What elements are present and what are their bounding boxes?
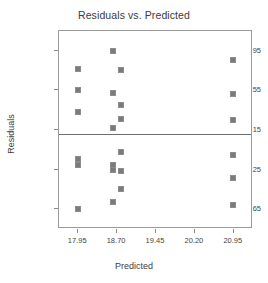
data-point [110,48,116,54]
chart-title: Residuals vs. Predicted [0,9,268,21]
x-tick-mark [233,229,234,233]
data-point [230,91,236,97]
data-point [230,117,236,123]
data-point [230,57,236,63]
data-point [75,162,81,168]
data-point [118,102,124,108]
data-point [118,186,124,192]
data-point [118,67,124,73]
y-axis-title: Residuals [6,94,16,174]
x-tick-mark [155,229,156,233]
data-point [230,152,236,158]
x-tick-mark [194,229,195,233]
x-axis-title: Predicted [0,261,268,271]
residuals-scatter-chart: Residuals vs. Predicted Residuals Predic… [0,0,268,283]
x-tick-mark [77,229,78,233]
x-tick-mark [116,229,117,233]
data-point [230,175,236,181]
x-tick-label: 20.95 [210,236,256,245]
data-point [75,66,81,72]
data-point [230,202,236,208]
data-point [75,109,81,115]
plot-area [58,30,252,228]
data-point [110,90,116,96]
data-point [110,167,116,173]
data-point [75,87,81,93]
data-point [110,199,116,205]
data-point [110,125,116,131]
data-point [75,206,81,212]
data-point [118,116,124,122]
data-point [118,149,124,155]
zero-reference-line [59,134,251,135]
data-point [118,168,124,174]
